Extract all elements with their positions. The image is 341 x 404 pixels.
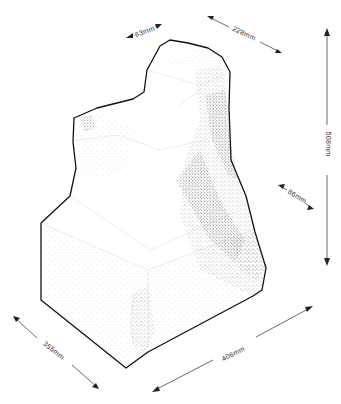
dimension-86mm: 86mm	[278, 184, 314, 210]
dimension-228mm: 228mm	[207, 16, 282, 53]
arrow-head-icon	[305, 306, 313, 312]
arrow-head-icon	[155, 24, 162, 29]
arrow-head-icon	[126, 33, 133, 38]
carved-block-diagram: 63mm 228mm 508mm 86mm 355mm 40	[0, 0, 341, 404]
dimension-label-355: 355mm	[42, 340, 66, 361]
arrow-head-icon	[324, 258, 330, 266]
arrow-head-icon	[307, 205, 314, 210]
dimension-508mm: 508mm	[324, 28, 332, 266]
dimension-label-228: 228mm	[232, 25, 257, 42]
arrow-head-icon	[324, 28, 330, 36]
dimension-label-406: 406mm	[221, 345, 246, 363]
dimension-label-86: 86mm	[287, 188, 308, 205]
dimension-label-508: 508mm	[325, 132, 332, 157]
arrow-head-icon	[152, 386, 160, 392]
dimension-63mm: 63mm	[126, 24, 162, 38]
